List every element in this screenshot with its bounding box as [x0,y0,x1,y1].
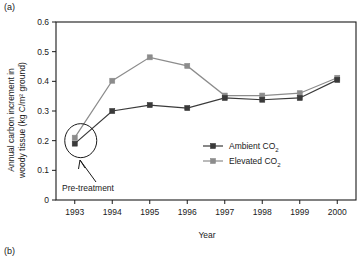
legend-label-subscript: 2 [275,147,279,153]
data-point-marker [222,95,227,100]
x-tick-label: 1996 [178,207,197,217]
data-point-marker [110,109,115,114]
x-axis-ticks: 19931994199519961997199819992000 [65,200,347,217]
chart-annotations: Pre-treatment [62,124,115,193]
data-point-marker [260,97,265,102]
legend-marker-sample [211,159,216,164]
x-tick-label: 1995 [140,207,159,217]
data-point-marker [110,78,115,83]
chart-figure: 0.60.50.40.30.20.10 19931994199519961997… [0,0,362,246]
y-axis-label-line2: woody tissue (kg C/m² ground) [17,62,27,179]
data-point-marker [72,141,77,146]
legend-label: Ambient CO2 [229,141,279,153]
y-axis-label-line1: Annual carbon increment in [6,68,16,172]
data-point-marker [185,63,190,68]
data-point-marker [297,95,302,100]
pretreatment-annotation-label: Pre-treatment [62,183,115,193]
panel-b-label: (b) [4,246,15,256]
pretreatment-arrow-head [79,160,86,169]
y-tick-label: 0.4 [37,76,49,86]
data-point-marker [72,135,77,140]
data-point-marker [147,55,152,60]
x-tick-label: 1999 [290,207,309,217]
chart-axes [56,22,356,200]
chart-legend: Ambient CO2Elevated CO2 [203,141,281,168]
x-tick-label: 1994 [103,207,122,217]
y-tick-label: 0.6 [37,17,49,27]
data-point-marker [335,77,340,82]
y-tick-label: 0 [44,195,49,205]
x-tick-label: 1997 [215,207,234,217]
x-tick-label: 1998 [253,207,272,217]
legend-label: Elevated CO2 [229,156,281,168]
x-tick-label: 1993 [65,207,84,217]
plot-frame [56,22,356,200]
y-tick-label: 0.3 [37,106,49,116]
legend-label-subscript: 2 [277,162,281,168]
y-tick-label: 0.2 [37,136,49,146]
y-tick-label: 0.5 [37,47,49,57]
x-axis-label: Year [198,230,215,240]
y-axis-ticks: 0.60.50.40.30.20.10 [37,17,56,205]
x-tick-label: 2000 [328,207,347,217]
chart-svg: 0.60.50.40.30.20.10 19931994199519961997… [0,0,362,246]
y-tick-label: 0.1 [37,165,49,175]
data-point-marker [297,91,302,96]
chart-series [72,55,340,146]
data-point-marker [147,103,152,108]
data-point-marker [185,106,190,111]
legend-marker-sample [211,144,216,149]
